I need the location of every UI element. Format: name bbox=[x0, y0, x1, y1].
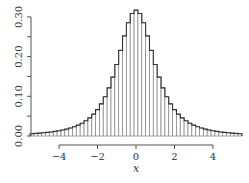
x-tick-label: 2 bbox=[171, 151, 177, 162]
histogram-bar bbox=[207, 130, 211, 136]
histogram-bar bbox=[196, 127, 200, 136]
histogram-bar bbox=[146, 36, 150, 136]
histogram-bar bbox=[49, 132, 53, 136]
histogram-bar bbox=[188, 123, 192, 136]
histogram-bar bbox=[107, 88, 111, 136]
x-tick-label: 4 bbox=[210, 151, 216, 162]
histogram-bar bbox=[53, 131, 57, 136]
histogram-bar bbox=[165, 97, 169, 136]
y-axis: 0.000.100.200.30 bbox=[13, 6, 31, 147]
x-tick-label: −4 bbox=[52, 151, 67, 162]
x-tick-label: −2 bbox=[90, 151, 105, 162]
histogram-bar bbox=[153, 65, 157, 137]
histogram-bar bbox=[88, 118, 92, 136]
histogram-bar bbox=[157, 77, 161, 136]
histogram-bar bbox=[80, 123, 84, 136]
histogram-bar bbox=[115, 65, 119, 137]
histogram-bar bbox=[96, 110, 100, 136]
histogram-bar bbox=[176, 114, 180, 136]
histogram-bar bbox=[126, 23, 130, 136]
histogram-bar bbox=[138, 14, 142, 136]
histogram-bar bbox=[72, 127, 76, 136]
histogram-bar bbox=[76, 125, 80, 136]
histogram-bar bbox=[69, 128, 73, 136]
histogram-bar bbox=[99, 104, 103, 136]
histogram-bar bbox=[65, 129, 69, 136]
histogram-bar bbox=[180, 118, 184, 136]
histogram-bar bbox=[123, 36, 127, 136]
histogram-bar bbox=[84, 121, 88, 136]
histogram-bar bbox=[134, 10, 138, 136]
histogram-bar bbox=[203, 129, 207, 136]
histogram-bar bbox=[161, 88, 165, 136]
histogram-bar bbox=[200, 128, 204, 136]
histogram-bar bbox=[173, 110, 177, 136]
y-tick-label: 0.00 bbox=[13, 125, 24, 147]
histogram-bar bbox=[61, 130, 65, 136]
histogram-bar bbox=[142, 23, 146, 136]
histogram-bar bbox=[219, 132, 223, 136]
x-axis-title: x bbox=[133, 162, 140, 175]
histogram-bar bbox=[211, 131, 215, 136]
histogram-bar bbox=[111, 77, 115, 136]
x-axis: −4−2024 bbox=[52, 145, 217, 162]
histogram-bar bbox=[130, 14, 134, 136]
histogram-bar bbox=[92, 114, 96, 136]
histogram-bar bbox=[119, 50, 123, 136]
histogram-chart: 0.000.100.200.30 −4−2024 x bbox=[0, 0, 249, 183]
histogram-bar bbox=[169, 104, 173, 136]
histogram-bar bbox=[215, 131, 219, 136]
y-tick-label: 0.10 bbox=[13, 85, 24, 107]
histogram-bar bbox=[149, 50, 153, 136]
x-tick-label: 0 bbox=[133, 151, 139, 162]
y-tick-label: 0.30 bbox=[13, 6, 24, 28]
histogram-bar bbox=[103, 97, 107, 136]
histogram-bars bbox=[30, 10, 242, 136]
y-tick-label: 0.20 bbox=[13, 45, 24, 67]
histogram-bar bbox=[57, 131, 61, 136]
histogram-bar bbox=[184, 121, 188, 136]
histogram-bar bbox=[192, 125, 196, 136]
